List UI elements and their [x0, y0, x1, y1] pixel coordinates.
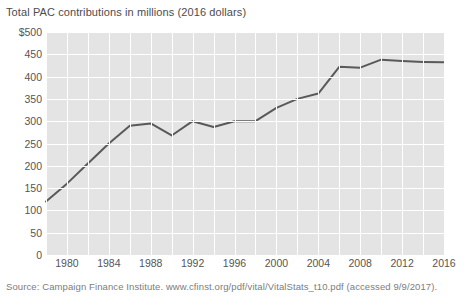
gridline-horizontal: [46, 99, 444, 100]
gridline-horizontal: [46, 188, 444, 189]
gridline-vertical: [360, 32, 361, 255]
y-axis-tick-label: 100: [2, 204, 42, 216]
gridline-vertical: [67, 32, 68, 255]
x-axis-tick-label: 1992: [181, 257, 204, 269]
gridline-horizontal: [46, 121, 444, 122]
gridline-horizontal: [46, 210, 444, 211]
source-note: Source: Campaign Finance Institute. www.…: [6, 281, 437, 292]
gridline-horizontal: [46, 233, 444, 234]
gridline-vertical: [297, 32, 298, 255]
gridline-vertical: [423, 32, 424, 255]
gridline-vertical: [109, 32, 110, 255]
x-axis-tick-label: 2004: [307, 257, 330, 269]
plot-area: [46, 32, 444, 255]
x-axis-tick-label: 1984: [97, 257, 120, 269]
gridline-vertical: [381, 32, 382, 255]
y-axis-tick-label: 300: [2, 115, 42, 127]
gridline-vertical: [151, 32, 152, 255]
gridline-horizontal: [46, 32, 444, 33]
x-axis-tick-label: 1980: [55, 257, 78, 269]
x-axis-tick-label: 2012: [390, 257, 413, 269]
y-axis-tick-label: 50: [2, 227, 42, 239]
gridline-vertical: [130, 32, 131, 255]
gridline-vertical: [214, 32, 215, 255]
x-axis-tick-label: 2008: [349, 257, 372, 269]
y-axis-tick-label: 400: [2, 71, 42, 83]
gridline-vertical: [235, 32, 236, 255]
gridline-vertical: [402, 32, 403, 255]
y-axis-tick-label: 450: [2, 48, 42, 60]
gridline-vertical: [318, 32, 319, 255]
series-polyline: [46, 60, 444, 202]
y-axis-tick-label: $500: [2, 26, 42, 38]
y-axis-tick-label: 350: [2, 93, 42, 105]
y-axis: $500450400350300250200150100500: [0, 32, 42, 255]
gridline-vertical: [444, 32, 445, 255]
y-axis-tick-label: 250: [2, 138, 42, 150]
gridline-horizontal: [46, 77, 444, 78]
y-axis-tick-label: 150: [2, 182, 42, 194]
gridline-horizontal: [46, 166, 444, 167]
x-axis-tick-label: 1988: [139, 257, 162, 269]
chart-figure: Total PAC contributions in millions (201…: [0, 0, 474, 298]
y-axis-tick-label: 0: [2, 249, 42, 261]
gridline-vertical: [276, 32, 277, 255]
gridline-horizontal: [46, 144, 444, 145]
y-axis-tick-label: 200: [2, 160, 42, 172]
x-axis: 1980198419881992199620002004200820122016: [46, 257, 444, 273]
gridline-horizontal: [46, 54, 444, 55]
gridline-horizontal: [46, 255, 444, 256]
chart-title: Total PAC contributions in millions (201…: [6, 6, 246, 18]
x-axis-tick-label: 1996: [223, 257, 246, 269]
x-axis-tick-label: 2000: [265, 257, 288, 269]
x-axis-tick-label: 2016: [432, 257, 455, 269]
gridline-vertical: [193, 32, 194, 255]
gridline-vertical: [255, 32, 256, 255]
gridline-vertical: [88, 32, 89, 255]
gridline-vertical: [46, 32, 47, 255]
gridline-vertical: [172, 32, 173, 255]
gridline-vertical: [339, 32, 340, 255]
